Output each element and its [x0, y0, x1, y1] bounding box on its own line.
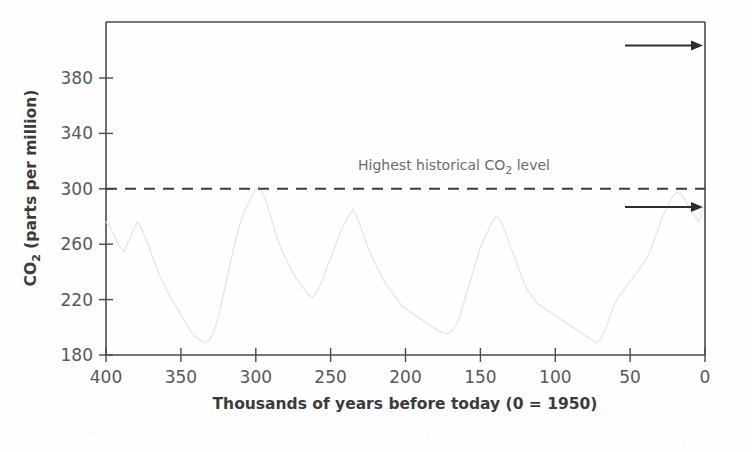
y-tick-label-300: 300 [61, 179, 93, 199]
annot-suffix: level [512, 157, 550, 173]
co2-series-line [106, 185, 704, 342]
x-tick-label-250: 250 [314, 367, 346, 387]
annot-prefix: Highest historical CO [358, 157, 505, 173]
y-tick-label-380: 380 [61, 68, 93, 88]
annot-subscript: 2 [505, 164, 512, 177]
x-tick-label-400: 400 [90, 367, 122, 387]
y-tick-label-340: 340 [61, 123, 93, 143]
x-tick-label-150: 150 [464, 367, 496, 387]
y-tick-label-180: 180 [61, 345, 93, 365]
y-tick-label-260: 260 [61, 234, 93, 254]
x-tick-label-0: 0 [700, 367, 711, 387]
x-axis-title: Thousands of years before today (0 = 195… [213, 395, 598, 413]
plot-frame [106, 22, 705, 355]
x-tick-label-300: 300 [240, 367, 272, 387]
x-tick-label-200: 200 [389, 367, 421, 387]
y-axis-title-main: CO [22, 262, 40, 287]
y-axis-title: CO2 (parts per million) [22, 90, 43, 287]
chart-svg: 180 220 260 300 340 380 400 350 300 250 … [0, 0, 752, 452]
x-axis-tick-labels: 400 350 300 250 200 150 100 50 0 [90, 367, 711, 387]
x-tick-label-100: 100 [539, 367, 571, 387]
y-axis-tick-labels: 180 220 260 300 340 380 [61, 68, 93, 365]
x-tick-label-350: 350 [165, 367, 197, 387]
x-tick-label-50: 50 [619, 367, 641, 387]
lower-arrow [625, 202, 703, 212]
upper-arrow-head [691, 41, 703, 51]
y-tick-label-220: 220 [61, 290, 93, 310]
lower-arrow-head [691, 202, 703, 212]
y-axis-title-subscript: 2 [30, 254, 43, 262]
highest-historical-level-label: Highest historical CO2 level [358, 157, 550, 177]
y-axis-title-rest: (parts per million) [22, 90, 40, 255]
upper-arrow [625, 41, 703, 51]
co2-ice-core-chart: 180 220 260 300 340 380 400 350 300 250 … [0, 0, 752, 452]
